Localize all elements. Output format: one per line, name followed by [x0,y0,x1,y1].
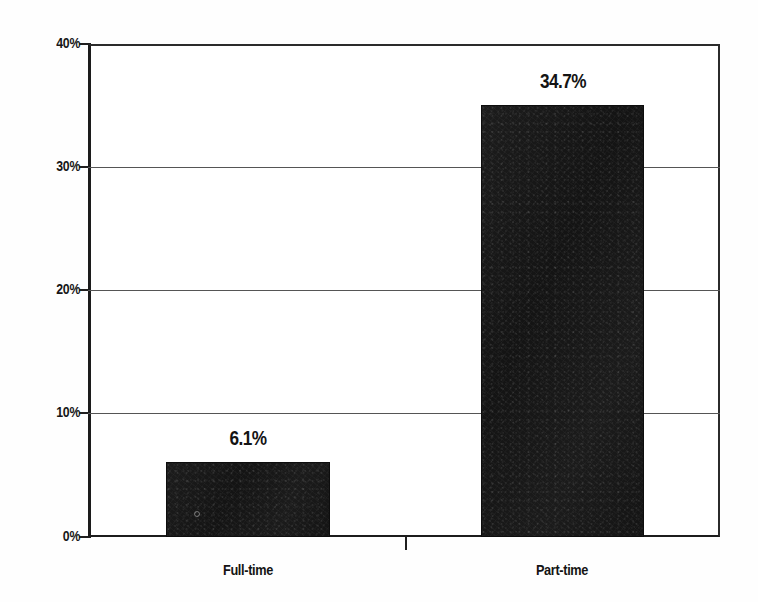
y-axis-tick-label-30: 30% [19,157,80,174]
data-label-full-time: 6.1% [188,427,308,450]
x-axis-category-label-part-time: Part-time [494,561,630,578]
y-axis-tick-label-20: 20% [19,280,80,297]
bar-full-time[interactable] [166,462,330,537]
y-axis-tick-20: 20% [0,280,80,300]
y-axis-tick-30: 30% [0,157,80,177]
y-axis-tick-0: 0% [0,527,80,547]
data-label-part-time: 34.7% [503,70,623,93]
bar-chart: 40% 30% 20% 10% 0% 6.1% 34.7% Full-time … [0,0,758,602]
y-axis-tick-40: 40% [0,34,80,54]
x-axis-tick-mark-separator [405,537,407,550]
x-axis-category-label-full-time: Full-time [180,561,316,578]
y-axis-tick-10: 10% [0,403,80,423]
scan-speck-artifact [194,511,200,517]
y-axis-tick-label-40: 40% [19,34,80,51]
bar-part-time[interactable] [481,105,644,537]
y-axis-tick-label-10: 10% [19,403,80,420]
y-axis-tick-label-0: 0% [19,527,80,544]
